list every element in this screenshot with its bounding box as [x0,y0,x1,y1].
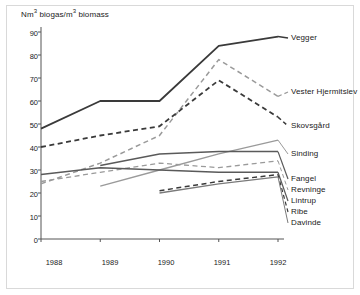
series-line-lintrup [41,168,278,175]
series-line-fangel [100,152,278,166]
leader-line-sinding [278,140,288,154]
chart-plot-area [0,0,360,295]
leader-line-davinde [278,177,288,223]
leader-line-vester-hjermitslev [278,92,288,96]
series-line-sinding [100,140,278,186]
chart-figure: Nm3 biogas/m3 biomass 90 80 70 60 50 40 … [0,0,360,295]
data-series-layer [41,37,278,193]
series-line-skovsg-rd [41,80,278,147]
series-line-davinde [160,177,279,193]
series-line-vegger [41,37,278,129]
leader-line-vegger [278,37,288,38]
legend-leader-lines [278,37,288,223]
series-line-vester-hjermitslev [41,60,278,184]
leader-line-ribe [278,175,288,212]
leader-line-skovsg-rd [278,117,288,126]
series-line-ribe [160,175,279,191]
